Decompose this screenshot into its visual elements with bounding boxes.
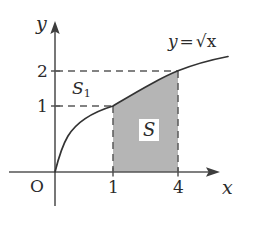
region-label-s1-subscript: 1 (84, 87, 91, 100)
region-label-s1-base: S (72, 78, 84, 98)
origin-label: O (30, 178, 44, 195)
region-label-s1: S1 (72, 80, 91, 99)
equation-radical: √x (196, 31, 216, 51)
curve-equation-label: y=√x (168, 33, 216, 50)
y-tick-label-1: 1 (37, 98, 48, 115)
region-label-s: S (139, 119, 159, 141)
equation-equals-sign: = (178, 31, 196, 51)
x-tick-label-1: 1 (108, 179, 119, 196)
y-axis-label: y (36, 14, 47, 33)
x-axis-label: x (222, 178, 233, 197)
x-tick-label-4: 4 (173, 179, 184, 196)
equation-lhs: y (168, 31, 178, 51)
y-tick-label-2: 2 (37, 63, 48, 80)
math-figure: y x O 1 4 1 2 S S1 y=√x (0, 0, 272, 230)
